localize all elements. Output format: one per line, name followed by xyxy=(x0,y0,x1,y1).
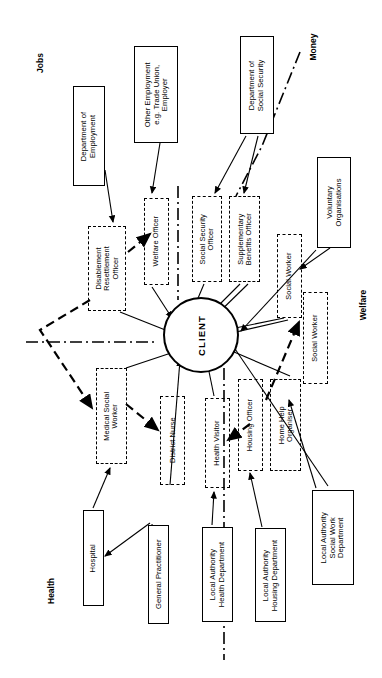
social-worker-lower: Social Worker xyxy=(303,292,328,384)
quadrant-label-welfare: Welfare xyxy=(348,300,379,310)
local-authority-health-department: Local AuthorityHealth Department xyxy=(202,527,233,622)
client-label: CLIENT xyxy=(196,315,207,356)
solid-edges-2 xyxy=(215,136,246,193)
general-practitioner: General Practitioner xyxy=(148,525,169,624)
home-help-organiser-label: Home HelpOrganiser xyxy=(277,406,294,444)
social-worker-upper-label: Social Worker xyxy=(285,252,293,299)
general-practitioner-label: General Practitioner xyxy=(154,540,163,610)
other-employment: Other Employmente.g. Trade Union,Employe… xyxy=(134,46,178,143)
medical-social-worker: Medical SocialWorker xyxy=(96,368,127,464)
solid-edges-16 xyxy=(105,523,150,556)
department-of-employment-label: Department ofEmployment xyxy=(81,111,98,160)
thick-dashed-edges-1 xyxy=(40,300,92,408)
local-authority-social-work-department: Local AuthoritySocial WorkDepartment xyxy=(312,490,354,585)
health-visitor-label: Health Visitor xyxy=(213,420,221,465)
quadrant-text-welfare: Welfare xyxy=(358,290,368,321)
hospital: Hospital xyxy=(83,510,104,606)
solid-edges-3 xyxy=(244,136,258,193)
quadrant-text-health: Health xyxy=(46,578,56,604)
client-node: CLIENT xyxy=(163,297,239,373)
local-authority-housing-department: Local AuthorityHousing Department xyxy=(255,528,286,622)
solid-edges-19 xyxy=(250,473,262,527)
solid-edges-18 xyxy=(212,492,214,525)
quadrant-text-money: Money xyxy=(308,34,318,61)
thick-dashed-edges-2 xyxy=(126,404,158,430)
medical-social-worker-label: Medical SocialWorker xyxy=(103,391,120,440)
voluntary-organisations-label: VoluntaryOrganisations xyxy=(326,178,343,226)
welfare-officer: Welfare Officer xyxy=(144,198,169,285)
solid-edges-0 xyxy=(105,170,113,222)
quadrant-label-health: Health xyxy=(38,586,64,596)
social-worker-lower-label: Social Worker xyxy=(311,314,319,361)
disablement-resettlement-officer-label: DisablementResettlementOfficer xyxy=(95,246,120,291)
district-nurse: District Nurse xyxy=(160,396,185,485)
solid-edges-1 xyxy=(152,143,160,193)
housing-officer-label: Housing Officer xyxy=(246,399,254,451)
health-visitor: Health Visitor xyxy=(205,398,230,488)
department-of-social-security-label: Department ofSocial Security xyxy=(249,59,266,111)
local-authority-housing-department-label: Local AuthorityHousing Department xyxy=(262,539,279,610)
district-nurse-label: District Nurse xyxy=(168,418,176,464)
quadrant-label-jobs: Jobs xyxy=(30,58,50,68)
quadrant-text-jobs: Jobs xyxy=(35,53,45,73)
quadrant-label-money: Money xyxy=(300,42,327,52)
social-security-officer-label: Social SecurityOfficer xyxy=(199,214,216,264)
home-help-organiser: Home HelpOrganiser xyxy=(270,379,301,471)
disablement-resettlement-officer: DisablementResettlementOfficer xyxy=(88,226,126,311)
welfare-officer-label: Welfare Officer xyxy=(152,216,160,267)
department-of-employment: Department ofEmployment xyxy=(73,86,105,186)
social-worker-upper: Social Worker xyxy=(277,234,302,318)
local-authority-health-department-label: Local AuthorityHealth Department xyxy=(209,542,226,607)
social-security-officer: Social SecurityOfficer xyxy=(192,196,222,282)
housing-officer: Housing Officer xyxy=(238,379,263,471)
voluntary-organisations: VoluntaryOrganisations xyxy=(317,157,351,248)
solid-edges-14 xyxy=(93,468,110,508)
hospital-label: Hospital xyxy=(89,544,98,572)
local-authority-social-work-department-label: Local AuthoritySocial WorkDepartment xyxy=(320,512,346,563)
network-diagram: CLIENT Department ofEmploymentOther Empl… xyxy=(0,0,382,678)
other-employment-label: Other Employmente.g. Trade Union,Employe… xyxy=(143,62,169,127)
supplementary-benefits-officer: SupplementaryBenefits Officer xyxy=(229,196,260,282)
supplementary-benefits-officer-label: SupplementaryBenefits Officer xyxy=(236,213,253,265)
department-of-social-security: Department ofSocial Security xyxy=(240,36,274,134)
